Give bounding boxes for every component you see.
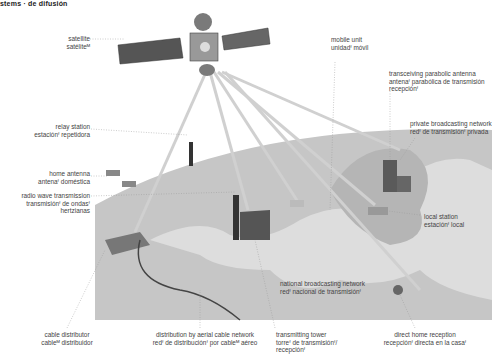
- label-en: radio wave transmission: [21, 192, 90, 199]
- label-mobile-unit: mobile unit unidadᶠ móvil: [331, 36, 368, 51]
- label-satellite: satellite satéliteᴹ: [66, 35, 90, 50]
- label-cable-distributor: cable distributor cableᴹ distribuidor: [34, 331, 100, 346]
- label-home-antenna: home antenna antenaᶠ doméstica: [38, 170, 90, 185]
- label-es: estaciónᶠ repetidora: [34, 131, 90, 139]
- label-en: relay station: [56, 123, 90, 130]
- label-es: estaciónᶠ local: [424, 221, 464, 229]
- satellite-icon: [118, 13, 270, 76]
- label-en: home antenna: [49, 170, 90, 177]
- label-relay-station: relay station estaciónᶠ repetidora: [34, 123, 90, 138]
- label-es: antenaᶠ doméstica: [38, 178, 90, 186]
- label-es: redᶠ de transmisiónᶠ privada: [410, 128, 492, 136]
- tower-building: [240, 210, 270, 240]
- label-aerial-cable: distribution by aerial cable network red…: [140, 331, 270, 346]
- local-station-icon: [368, 207, 388, 215]
- label-es: unidadᶠ móvil: [331, 44, 368, 52]
- label-es-2: recepciónᶠ: [276, 346, 337, 354]
- label-en: local station: [424, 213, 458, 220]
- label-en: transceiving parabolic antenna: [389, 70, 476, 77]
- label-en: transmitting tower: [276, 331, 326, 338]
- label-es: redᶠ nacional de transmisiónᶠ: [280, 288, 365, 296]
- label-es-2: hertzianas: [21, 207, 90, 215]
- mobile-unit-icon: [290, 200, 304, 207]
- label-es: redᶠ de distribuciónᶠ por cableᴹ aéreo: [140, 339, 270, 347]
- home-antenna-icon: [106, 170, 120, 176]
- label-national-network: national broadcasting network redᶠ nacio…: [280, 280, 365, 295]
- label-transceiving-antenna: transceiving parabolic antenna antenaᶠ p…: [389, 70, 485, 93]
- label-en: satellite: [68, 35, 90, 42]
- label-radio-wave: radio wave transmission transmisiónᶠ de …: [21, 192, 90, 215]
- transmitting-tower-icon: [233, 195, 239, 240]
- label-en: private broadcasting network: [410, 120, 492, 127]
- label-local-station: local station estaciónᶠ local: [424, 213, 464, 228]
- label-direct-home: direct home reception recepciónᶠ directa…: [370, 331, 480, 346]
- label-es: torreᶠ de transmisiónᶠ/: [276, 339, 337, 347]
- label-es: satéliteᴹ: [66, 43, 90, 51]
- relay-tower-icon: [189, 142, 193, 166]
- label-en: distribution by aerial cable network: [156, 331, 254, 338]
- label-es-2: recepciónᶠ: [389, 85, 485, 93]
- label-es: recepciónᶠ directa en la casaᶠ: [370, 339, 480, 347]
- label-en: cable distributor: [44, 331, 89, 338]
- label-en: direct home reception: [394, 331, 455, 338]
- label-transmitting-tower: transmitting tower torreᶠ de transmisión…: [276, 331, 337, 354]
- label-es: antenaᶠ parabólica de transmisión: [389, 78, 485, 86]
- private-network-building: [383, 160, 397, 192]
- label-es: cableᴹ distribuidor: [34, 339, 100, 347]
- label-es: transmisiónᶠ de ondasᶠ: [21, 200, 90, 208]
- direct-home-icon: [393, 285, 403, 295]
- label-en: national broadcasting network: [280, 280, 365, 287]
- label-private-network: private broadcasting network redᶠ de tra…: [410, 120, 492, 135]
- label-en: mobile unit: [331, 36, 362, 43]
